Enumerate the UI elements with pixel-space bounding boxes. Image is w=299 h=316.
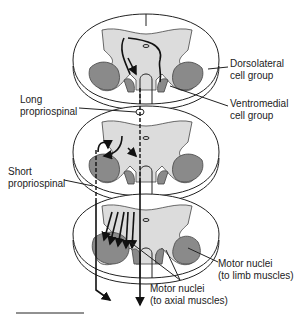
label-line: Dorsolateral [230,58,284,70]
label-line: propriospinal [8,178,65,190]
label-long-propriospinal: Long propriospinal [20,94,77,118]
label-line: propriospinal [20,106,77,118]
label-ventromedial: Ventromedial cell group [230,98,288,122]
label-line: cell group [230,110,288,122]
label-line: (to limb muscles) [218,270,294,282]
label-line: Short [8,166,65,178]
label-line: (to axial muscles) [150,295,228,307]
segment-middle [73,106,219,202]
label-short-propriospinal: Short propriospinal [8,166,65,190]
label-motor-limb: Motor nuclei (to limb muscles) [218,258,294,282]
label-dorsolateral: Dorsolateral cell group [230,58,284,82]
label-line: Motor nuclei [218,258,294,270]
label-line: Ventromedial [230,98,288,110]
segment-lower [73,194,219,284]
label-line: Long [20,94,77,106]
label-motor-axial: Motor nuclei (to axial muscles) [150,283,228,307]
label-line: Motor nuclei [150,283,228,295]
label-line: cell group [230,70,284,82]
